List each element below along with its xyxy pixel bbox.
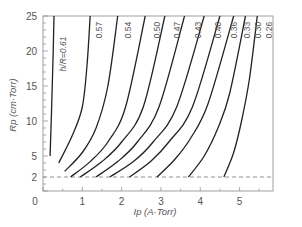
line-chart: 2510152025012345 h/R=0.610.570.540.500.4… <box>0 0 302 227</box>
y-tick-label: 2 <box>31 172 37 183</box>
curve-label: 0.33 <box>242 21 252 38</box>
y-tick-label: 25 <box>26 11 38 22</box>
chart-container: 2510152025012345 h/R=0.610.570.540.500.4… <box>0 0 302 227</box>
curves <box>50 16 257 177</box>
plot-border <box>43 16 273 191</box>
x-tick-label: 2 <box>119 196 125 207</box>
curve-h-r-0-33 <box>157 16 234 177</box>
curve-labels: h/R=0.610.570.540.500.470.430.400.360.33… <box>58 21 274 71</box>
curve-h-r-0-54 <box>65 16 118 171</box>
curve-h-r-0-61 <box>50 16 54 156</box>
curve-label: 0.40 <box>213 21 223 38</box>
curve-label: 0.47 <box>172 21 182 38</box>
plot-frame <box>43 16 273 191</box>
x-axis-label: Ip (A·Torr) <box>134 206 177 217</box>
curve-label: 0.26 <box>264 21 274 38</box>
x-tick-label: 4 <box>197 196 203 207</box>
curve-label: 0.36 <box>229 21 239 38</box>
curve-label: h/R=0.61 <box>58 36 68 71</box>
curve-label: 0.57 <box>94 21 104 38</box>
x-tick-label: 5 <box>237 196 243 207</box>
y-tick-label: 10 <box>26 116 38 127</box>
curve-label: 0.50 <box>152 21 162 38</box>
curve-h-r-0-47 <box>80 16 165 177</box>
x-tick-label: 0 <box>32 196 38 207</box>
curve-label: 0.54 <box>123 21 133 38</box>
curve-label: 0.30 <box>253 21 263 38</box>
curve-label: 0.43 <box>193 21 203 38</box>
curve-h-r-0-40 <box>110 16 204 177</box>
y-tick-label: 15 <box>26 81 38 92</box>
y-axis-label: Rp (cm·Torr) <box>7 78 18 131</box>
x-tick-label: 1 <box>80 196 86 207</box>
y-tick-label: 20 <box>26 46 38 57</box>
y-tick-label: 5 <box>31 151 37 162</box>
